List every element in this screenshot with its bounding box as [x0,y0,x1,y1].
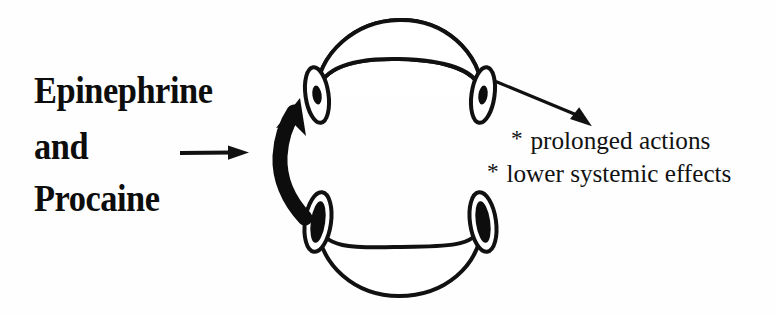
upper-vessel-band [316,20,483,96]
lower-vessel-band [317,222,483,296]
figure-canvas: Epinephrine and Procaine *prolonged acti… [0,0,775,315]
cycle-arrow-icon [276,98,306,218]
vessel-diagram-svg [0,0,775,315]
output-arrow-icon [497,82,596,126]
input-arrow-icon [180,146,249,160]
